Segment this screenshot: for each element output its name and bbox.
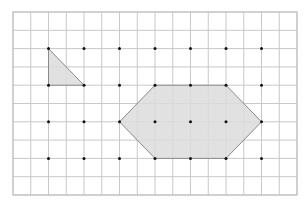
lattice-dot <box>225 157 228 160</box>
lattice-dot <box>83 120 86 123</box>
lattice-dot <box>260 157 263 160</box>
lattice-dot <box>154 47 157 50</box>
lattice-dot <box>189 120 192 123</box>
lattice-dot <box>47 157 50 160</box>
lattice-dot <box>189 84 192 87</box>
lattice-dot <box>47 120 50 123</box>
lattice-dot <box>118 84 121 87</box>
lattice-dot <box>154 84 157 87</box>
lattice-dot <box>154 120 157 123</box>
lattice-dot <box>118 47 121 50</box>
lattice-dot <box>225 84 228 87</box>
lattice-dot <box>83 84 86 87</box>
lattice-dot <box>189 47 192 50</box>
lattice-dot <box>225 47 228 50</box>
lattice-dot <box>154 157 157 160</box>
lattice-dot <box>225 120 228 123</box>
lattice-dot <box>83 157 86 160</box>
lattice-dot <box>47 47 50 50</box>
lattice-dot <box>83 47 86 50</box>
lattice-dot <box>189 157 192 160</box>
grid-figure <box>0 0 304 203</box>
lattice-dot <box>118 157 121 160</box>
lattice-dot <box>260 120 263 123</box>
lattice-dot <box>47 84 50 87</box>
lattice-dot <box>260 84 263 87</box>
lattice-dot <box>118 120 121 123</box>
lattice-dot <box>260 47 263 50</box>
